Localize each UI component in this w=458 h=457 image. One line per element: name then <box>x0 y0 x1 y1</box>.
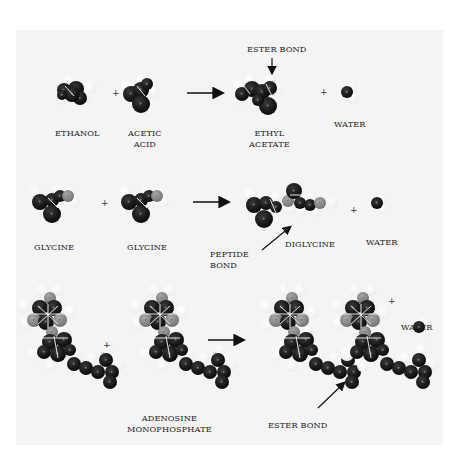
atom-nucleus-dot <box>59 319 61 321</box>
atom-nucleus-dot <box>269 87 271 89</box>
atom-nucleus-dot <box>287 200 289 202</box>
atom-nucleus-dot <box>185 363 187 365</box>
atom-nucleus-dot <box>262 217 264 219</box>
atom-nucleus-dot <box>175 339 177 341</box>
atom-nucleus-dot <box>253 204 255 206</box>
glycine-molecule <box>118 184 169 223</box>
label-line: ETHYL <box>249 128 290 139</box>
atom-nucleus-dot <box>293 190 295 192</box>
atom-nucleus-dot <box>422 381 424 383</box>
atom-nucleus-dot <box>362 297 364 299</box>
atom-nucleus-dot <box>346 91 348 93</box>
atom-nucleus-dot <box>376 202 378 204</box>
atom-nucleus-dot <box>221 381 223 383</box>
atom-nucleus-dot <box>275 319 277 321</box>
atom-nucleus-dot <box>148 195 150 197</box>
label-line: ETHANOL <box>55 128 100 139</box>
atom-nucleus-dot <box>346 319 348 321</box>
atom-nucleus-dot <box>139 102 141 104</box>
glycine-label: GLYCINE <box>34 242 74 253</box>
label-line: DIGLYCINE <box>285 239 335 250</box>
atom-nucleus-dot <box>163 331 165 333</box>
atom-nucleus-dot <box>295 307 297 309</box>
atom-nucleus-dot <box>291 341 293 343</box>
atom-nucleus-dot <box>309 204 311 206</box>
atom-nucleus-dot <box>181 349 183 351</box>
hydrogen-atom <box>259 299 273 313</box>
atom-nucleus-dot <box>351 381 353 383</box>
plus-sign: + <box>350 205 358 215</box>
label-line: ADENOSINE <box>127 413 212 424</box>
label-line: GLYCINE <box>127 242 167 253</box>
atom-nucleus-dot <box>364 331 366 333</box>
atom-nucleus-dot <box>305 339 307 341</box>
atom-nucleus-dot <box>33 319 35 321</box>
amp-molecule <box>129 284 237 389</box>
reaction-diagram <box>0 0 458 457</box>
water-label: WATER <box>366 237 398 248</box>
atom-nucleus-dot <box>50 212 52 214</box>
label-line: WATER <box>334 119 366 130</box>
ethanol-label: ETHANOL <box>55 128 100 139</box>
label-line: PEPTIDE <box>210 249 249 260</box>
atom-nucleus-dot <box>299 202 301 204</box>
atom-nucleus-dot <box>109 381 111 383</box>
water-label: WATER <box>334 119 366 130</box>
atom-nucleus-dot <box>327 367 329 369</box>
atom-nucleus-dot <box>353 371 355 373</box>
peptide-bond-annotation: PEPTIDE BOND <box>210 249 249 271</box>
atom-nucleus-dot <box>146 83 148 85</box>
atom-nucleus-dot <box>130 93 132 95</box>
atom-nucleus-dot <box>358 321 360 323</box>
atom-nucleus-dot <box>59 195 61 197</box>
glycine-label: GLYCINE <box>127 242 167 253</box>
plus-sign: + <box>388 296 396 306</box>
label-line: GLYCINE <box>34 242 74 253</box>
atom-nucleus-dot <box>266 104 268 106</box>
acetic-acid-label: ACETIC ACID <box>128 128 162 150</box>
atom-nucleus-dot <box>73 363 75 365</box>
atom-nucleus-dot <box>372 319 374 321</box>
ester-bond-annotation: ESTER BOND <box>268 420 327 431</box>
atom-nucleus-dot <box>161 341 163 343</box>
plus-sign: + <box>101 198 109 208</box>
label-line: WATER <box>366 237 398 248</box>
hydrogen-atom <box>129 299 143 313</box>
plus-sign: + <box>103 340 111 350</box>
water-label: WATER <box>401 322 433 333</box>
atom-nucleus-dot <box>53 307 55 309</box>
atom-nucleus-dot <box>287 321 289 323</box>
plus-sign: + <box>320 87 328 97</box>
atom-nucleus-dot <box>51 331 53 333</box>
atom-nucleus-dot <box>265 202 267 204</box>
hydrogen-atom <box>286 360 298 372</box>
atom-nucleus-dot <box>285 351 287 353</box>
label-line: ACID <box>128 139 162 150</box>
atom-nucleus-dot <box>366 307 368 309</box>
atom-nucleus-dot <box>311 349 313 351</box>
label-line: ESTER BOND <box>268 420 327 431</box>
atom-nucleus-dot <box>39 201 41 203</box>
atom-nucleus-dot <box>145 319 147 321</box>
ester-bond-pointer-arrow <box>318 383 344 408</box>
atom-nucleus-dot <box>171 319 173 321</box>
label-line: WATER <box>401 322 433 333</box>
atom-nucleus-dot <box>319 202 321 204</box>
atom-nucleus-dot <box>386 363 388 365</box>
ester-bond-annotation: ESTER BOND <box>247 44 306 55</box>
atom-nucleus-dot <box>197 367 199 369</box>
atom-nucleus-dot <box>155 351 157 353</box>
hydrogen-atom <box>17 299 31 313</box>
atom-nucleus-dot <box>398 367 400 369</box>
water-molecule <box>341 82 358 103</box>
ethyl-acetate-label: ETHYL ACETATE <box>249 128 290 150</box>
atom-nucleus-dot <box>410 371 412 373</box>
atom-nucleus-dot <box>257 99 259 101</box>
atom-nucleus-dot <box>275 206 277 208</box>
atom-nucleus-dot <box>49 341 51 343</box>
ethanol-molecule <box>53 75 97 105</box>
atom-nucleus-dot <box>376 339 378 341</box>
hydrogen-atom <box>44 360 56 372</box>
atom-nucleus-dot <box>157 321 159 323</box>
atom-nucleus-dot <box>424 371 426 373</box>
